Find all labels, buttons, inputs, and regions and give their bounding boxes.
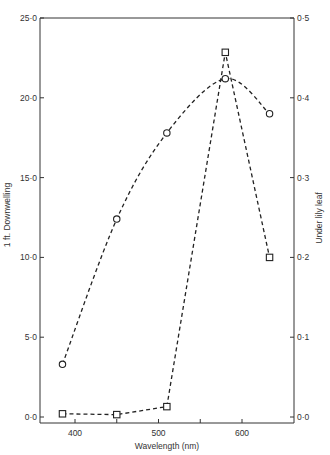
left-tick-label: 20·0 [20, 93, 37, 103]
series-line [62, 78, 269, 364]
series-1-ft-downwelling [59, 75, 272, 367]
circle-marker-icon [222, 75, 228, 81]
right-axis-ticks: 0·00·10·20·30·40·5 [290, 13, 310, 422]
left-tick-label: 0·0 [25, 412, 38, 422]
left-tick-label: 5·0 [25, 332, 38, 342]
axes [40, 18, 294, 423]
square-marker-icon [59, 411, 65, 417]
x-tick-label: 500 [151, 428, 165, 438]
left-axis-title: 1 ft. Downwelling [2, 183, 12, 248]
x-tick-label: 600 [235, 428, 249, 438]
square-marker-icon [266, 254, 272, 260]
square-marker-icon [114, 411, 120, 417]
left-tick-label: 10·0 [20, 252, 37, 262]
right-tick-label: 0·5 [297, 13, 310, 23]
x-axis-title: Wavelength (nm) [135, 441, 200, 451]
square-marker-icon [222, 49, 228, 55]
axis-frame [40, 18, 294, 423]
right-tick-label: 0·1 [297, 332, 310, 342]
right-tick-label: 0·3 [297, 173, 310, 183]
circle-marker-icon [266, 111, 272, 117]
series-under-lily-leaf [59, 49, 272, 418]
series-line [62, 52, 269, 414]
circle-marker-icon [164, 130, 170, 136]
x-axis-ticks: 400500600 [68, 419, 249, 438]
left-tick-label: 25·0 [20, 13, 37, 23]
right-tick-label: 0·2 [297, 252, 310, 262]
x-tick-label: 400 [68, 428, 82, 438]
series-layer [59, 49, 272, 418]
right-axis-title: Under lily leaf [314, 192, 324, 244]
left-tick-label: 15·0 [20, 173, 37, 183]
circle-marker-icon [59, 361, 65, 367]
circle-marker-icon [114, 216, 120, 222]
chart: 0·05·010·015·020·025·0 0·00·10·20·30·40·… [0, 0, 330, 455]
right-tick-label: 0·0 [297, 412, 310, 422]
right-tick-label: 0·4 [297, 93, 310, 103]
square-marker-icon [164, 403, 170, 409]
